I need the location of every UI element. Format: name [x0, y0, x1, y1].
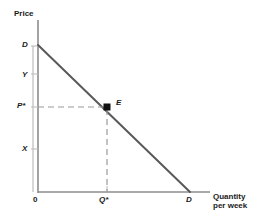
y-tick-label-p-star: P*: [17, 101, 25, 110]
demand-curve: [38, 45, 190, 192]
x-axis-title-line1: Quantity: [213, 192, 245, 201]
y-tick-label-x: X: [22, 144, 27, 153]
y-axis-title: Price: [14, 9, 34, 18]
x-axis-title-line2: per week: [213, 201, 247, 210]
equilibrium-point-marker: [104, 104, 111, 111]
chart-canvas: [0, 0, 261, 223]
x-tick-label-origin: 0: [33, 195, 37, 204]
y-tick-label-d: D: [22, 40, 28, 49]
x-tick-label-q-star: Q*: [99, 195, 108, 204]
equilibrium-point-label: E: [116, 98, 121, 107]
x-axis-title: Quantity per week: [213, 192, 247, 210]
demand-curve-figure: Price Quantity per week D Y P* X 0 Q* D …: [0, 0, 261, 223]
x-tick-label-d: D: [186, 195, 192, 204]
y-tick-label-y: Y: [22, 70, 27, 79]
